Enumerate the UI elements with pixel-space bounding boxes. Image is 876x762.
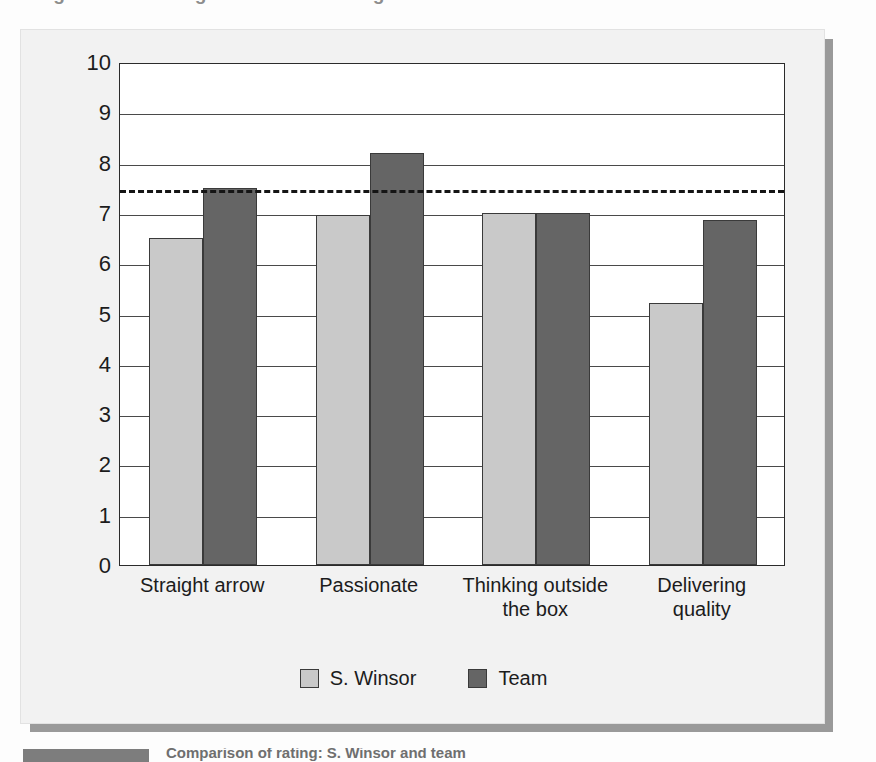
gridline-8 xyxy=(120,165,784,166)
y-axis: 012345678910 xyxy=(57,63,111,566)
gridline-9 xyxy=(120,114,784,115)
y-tick-label-2: 2 xyxy=(71,454,111,476)
y-tick-label-8: 8 xyxy=(71,153,111,175)
bar-1-1 xyxy=(370,153,424,566)
dark-gray-swatch xyxy=(468,669,487,688)
x-axis-label-3: Deliveringquality xyxy=(619,573,786,622)
bar-0-3 xyxy=(649,303,703,565)
figure-caption-strip: Comparison of rating: S. Winsor and team xyxy=(0,748,876,762)
caption-label-text: Comparison of rating: S. Winsor and team xyxy=(166,748,466,761)
bar-1-2 xyxy=(536,213,590,565)
reference-line-7.5 xyxy=(120,190,784,193)
light-gray-swatch xyxy=(300,669,319,688)
x-axis-labels: Straight arrowPassionateThinking outside… xyxy=(119,573,785,639)
x-label-line: quality xyxy=(619,597,786,621)
y-tick-label-10: 10 xyxy=(71,52,111,74)
x-label-line: Delivering xyxy=(619,573,786,597)
bar-0-2 xyxy=(482,213,536,565)
x-label-line: Straight arrow xyxy=(119,573,286,597)
y-tick-label-6: 6 xyxy=(71,253,111,275)
y-tick-label-0: 0 xyxy=(71,555,111,577)
y-tick-label-5: 5 xyxy=(71,304,111,326)
bar-1-0 xyxy=(203,188,257,565)
chart-panel: 012345678910 Straight arrowPassionateThi… xyxy=(20,29,825,724)
x-axis-label-1: Passionate xyxy=(286,573,453,597)
legend-entry-0: S. Winsor xyxy=(300,667,417,690)
bar-0-1 xyxy=(316,215,370,565)
y-tick-label-9: 9 xyxy=(71,102,111,124)
x-label-line: Passionate xyxy=(286,573,453,597)
y-tick-label-1: 1 xyxy=(71,505,111,527)
figure-title-text: Figure 7.2 360-degree feedback ratings xyxy=(36,0,395,5)
plot-area xyxy=(119,63,785,566)
x-axis-label-2: Thinking outsidethe box xyxy=(452,573,619,622)
cropped-title-remnant: Figure 7.2 360-degree feedback ratings xyxy=(0,0,876,16)
x-label-line: Thinking outside xyxy=(452,573,619,597)
bar-1-3 xyxy=(703,220,757,565)
y-tick-label-3: 3 xyxy=(71,404,111,426)
x-axis-label-0: Straight arrow xyxy=(119,573,286,597)
legend-label-0: S. Winsor xyxy=(330,667,417,690)
bar-0-0 xyxy=(149,238,203,565)
legend-label-1: Team xyxy=(498,667,547,690)
x-label-line: the box xyxy=(452,597,619,621)
caption-marker-block xyxy=(23,749,149,762)
y-tick-label-7: 7 xyxy=(71,203,111,225)
chart-legend: S. WinsorTeam xyxy=(21,667,826,690)
legend-entry-1: Team xyxy=(468,667,547,690)
y-tick-label-4: 4 xyxy=(71,354,111,376)
